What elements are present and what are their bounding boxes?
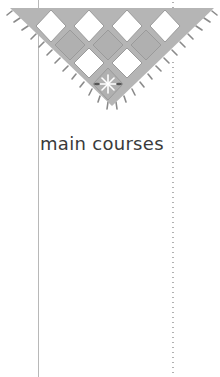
checkered-pennant-banner <box>0 0 220 115</box>
page-title: main courses <box>40 133 164 154</box>
compass-star-icon <box>99 75 117 93</box>
